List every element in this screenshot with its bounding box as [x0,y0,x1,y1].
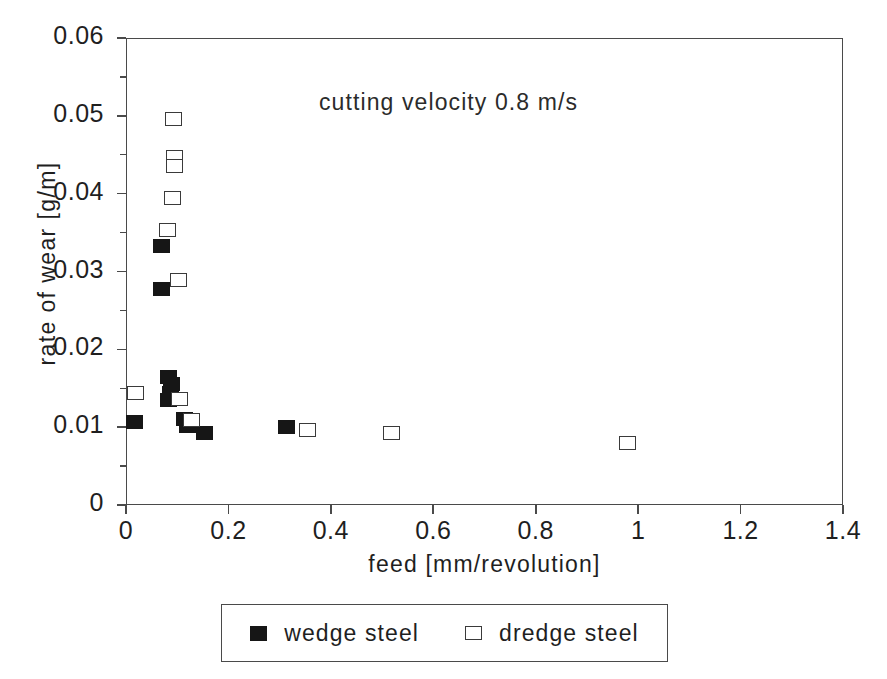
open-square-icon [465,626,482,640]
data-point [196,426,213,440]
data-point [164,191,181,205]
x-tick-label: 0.8 [491,516,581,545]
data-point [126,415,143,429]
data-point [383,426,400,440]
y-tick-label: 0.02 [8,332,104,361]
data-point [171,392,188,406]
x-tick-mark [330,505,332,514]
y-tick-label: 0.03 [8,255,104,284]
data-point [278,420,295,434]
data-point [166,159,183,173]
y-tick-mark [117,37,126,39]
data-point [170,273,187,287]
legend-entry: dredge steel [465,620,639,647]
x-tick-label: 0.2 [183,516,273,545]
x-tick-label: 0 [81,516,171,545]
x-tick-mark [637,505,639,514]
data-point [299,423,316,437]
x-tick-label: 1.2 [696,516,786,545]
y-tick-mark [117,193,126,195]
chart-annotation: cutting velocity 0.8 m/s [319,89,578,116]
data-point [159,223,176,237]
x-tick-mark [535,505,537,514]
data-point [619,436,636,450]
y-tick-label: 0.04 [8,177,104,206]
x-tick-label: 1 [593,516,683,545]
y-tick-mark [117,271,126,273]
y-tick-label: 0.01 [8,410,104,439]
data-point [127,386,144,400]
data-point [153,239,170,253]
y-tick-label: 0.05 [8,99,104,128]
x-axis-title: feed [mm/revolution] [126,551,843,578]
legend-label: dredge steel [499,620,639,647]
x-tick-label: 0.4 [286,516,376,545]
x-tick-label: 1.4 [798,516,887,545]
legend-entry: wedge steel [250,620,419,647]
legend-label: wedge steel [284,620,419,647]
y-tick-mark [117,115,126,117]
data-point [183,413,200,427]
x-tick-mark [842,505,844,514]
x-tick-mark [125,505,127,514]
x-tick-label: 0.6 [388,516,478,545]
y-tick-mark [117,349,126,351]
y-tick-label: 0.06 [8,21,104,50]
x-tick-mark [228,505,230,514]
x-tick-mark [432,505,434,514]
x-tick-mark [740,505,742,514]
y-tick-label: 0 [8,488,104,517]
data-point [153,282,170,296]
chart-legend: wedge steeldredge steel [221,604,668,662]
filled-square-icon [250,626,267,641]
y-tick-mark [117,426,126,428]
chart-figure: rate of wear [g/m] 00.010.020.030.040.05… [0,0,887,679]
plot-area: cutting velocity 0.8 m/s [126,38,843,505]
data-point [165,112,182,126]
